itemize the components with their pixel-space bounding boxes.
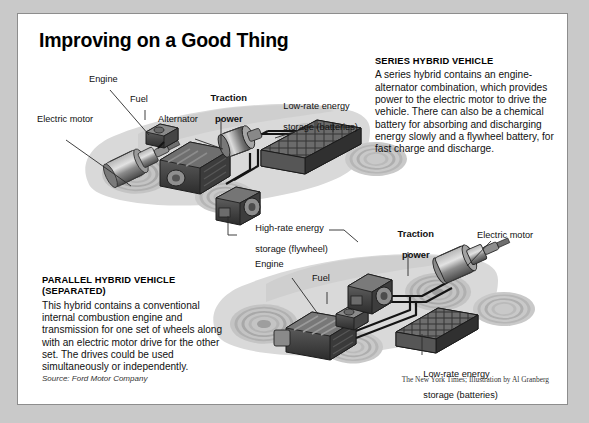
series-hybrid-text-block: SERIES HYBRID VEHICLE A series hybrid co… bbox=[375, 56, 555, 155]
label-top-traction-line1: Traction bbox=[211, 92, 247, 103]
label-top-battery: Low-rate energy storage (batteries) bbox=[268, 90, 358, 143]
label-flywheel-line2: storage (flywheel) bbox=[255, 244, 328, 254]
credit-line: The New York Times; Illustration by Al G… bbox=[402, 375, 549, 384]
label-flywheel: High-rate energy storage (flywheel) bbox=[240, 212, 328, 265]
label-bot-traction-power: Traction power bbox=[373, 218, 443, 271]
label-bot-traction-line1: Traction bbox=[398, 228, 434, 239]
parallel-hybrid-text-block: PARALLEL HYBRID VEHICLE (SEPARATED) This… bbox=[42, 275, 225, 374]
label-bot-traction-line2: power bbox=[402, 249, 430, 260]
parallel-hybrid-heading-line1: PARALLEL HYBRID VEHICLE bbox=[42, 275, 175, 285]
label-top-battery-line2: storage (batteries) bbox=[283, 122, 358, 132]
infographic-card: Improving on a Good Thing Engine Fuel El… bbox=[17, 13, 568, 405]
series-hybrid-body: A series hybrid contains an engine-alter… bbox=[375, 69, 555, 155]
infographic-page: Improving on a Good Thing Engine Fuel El… bbox=[0, 0, 589, 423]
parallel-hybrid-heading-line2: (SEPARATED) bbox=[42, 286, 106, 296]
label-top-traction-power: Traction power bbox=[186, 82, 256, 135]
label-bot-fuel: Fuel bbox=[312, 273, 330, 284]
parallel-hybrid-heading: PARALLEL HYBRID VEHICLE (SEPARATED) bbox=[42, 275, 225, 298]
leader-flywheel-right bbox=[329, 230, 358, 242]
series-hybrid-heading: SERIES HYBRID VEHICLE bbox=[375, 56, 555, 67]
label-top-fuel: Fuel bbox=[130, 94, 148, 105]
source-line: Source: Ford Motor Company bbox=[42, 374, 147, 383]
parallel-hybrid-body: This hybrid contains a conventional inte… bbox=[42, 300, 225, 374]
label-flywheel-line1: High-rate energy bbox=[255, 223, 323, 233]
label-bot-battery-line2: storage (batteries) bbox=[423, 390, 498, 400]
label-top-engine: Engine bbox=[89, 74, 118, 85]
label-top-traction-line2: power bbox=[215, 113, 243, 124]
label-bot-electric-motor: Electric motor bbox=[477, 230, 533, 241]
label-top-battery-line1: Low-rate energy bbox=[283, 101, 349, 111]
label-top-electric-motor: Electric motor bbox=[37, 114, 93, 125]
page-title: Improving on a Good Thing bbox=[39, 29, 289, 52]
label-bot-engine: Engine bbox=[255, 259, 284, 270]
